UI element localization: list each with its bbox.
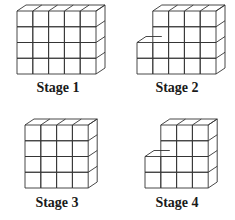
cube-stages-drawing (0, 0, 235, 220)
stage-2-label: Stage 2 (155, 80, 198, 96)
stage-3-label: Stage 3 (35, 195, 78, 211)
stages-figure: Stage 1 Stage 2 Stage 3 Stage 4 (0, 0, 235, 220)
stage-4-label: Stage 4 (155, 195, 198, 211)
stage-1-label: Stage 1 (36, 80, 79, 96)
stage-2-cubes (137, 5, 225, 74)
stage-1-cubes (17, 5, 105, 74)
stage-4-cubes (145, 119, 217, 188)
stage-3-cubes (25, 119, 97, 188)
